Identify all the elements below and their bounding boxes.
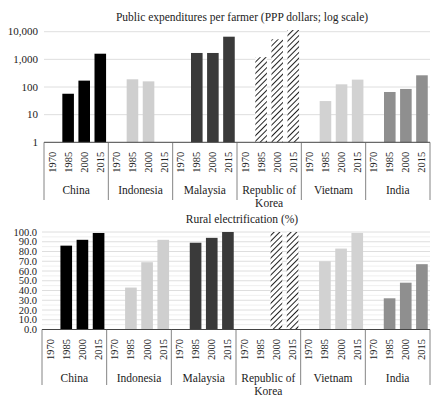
bar-india-2000 bbox=[400, 283, 412, 330]
group-label: Republic of bbox=[242, 184, 296, 197]
group-label: Malaysia bbox=[183, 372, 225, 385]
bar-indonesia-2000 bbox=[143, 81, 155, 142]
electrification-chart: Rural electrification (%) 0.010.020.030.… bbox=[0, 200, 444, 398]
x-tick-year: 2000 bbox=[142, 339, 153, 360]
bar-vietnam-1985 bbox=[320, 101, 332, 142]
x-tick-year: 2015 bbox=[223, 152, 234, 173]
bar-china-2015 bbox=[93, 233, 105, 330]
y-tick-label: 30.0 bbox=[19, 295, 37, 306]
x-tick-year: 1985 bbox=[127, 152, 138, 173]
group-label: China bbox=[61, 372, 88, 384]
x-tick-year: 2015 bbox=[93, 339, 104, 360]
group-label: Vietnam bbox=[314, 184, 353, 196]
x-tick-year: 2015 bbox=[352, 152, 363, 173]
bar-china-1985 bbox=[60, 246, 72, 330]
x-tick-year: 1970 bbox=[111, 152, 122, 173]
bar-indonesia-2000 bbox=[141, 262, 153, 329]
bar-malaysia-2015 bbox=[222, 232, 234, 330]
x-tick-year: 2015 bbox=[287, 339, 298, 360]
x-tick-year: 1985 bbox=[319, 339, 330, 360]
bar-india-2015 bbox=[416, 75, 428, 142]
bar-vietnam-2015 bbox=[352, 80, 364, 143]
bar-malaysia-2000 bbox=[206, 238, 218, 330]
x-tick-year: 1970 bbox=[303, 339, 314, 360]
x-tick-year: 1970 bbox=[174, 339, 185, 360]
group-label: Vietnam bbox=[314, 372, 353, 384]
x-tick-year: 1985 bbox=[125, 339, 136, 360]
group-label: Korea bbox=[254, 385, 282, 397]
x-tick-year: 1985 bbox=[384, 339, 395, 360]
x-tick-year: 2000 bbox=[143, 152, 154, 173]
x-tick-year: 2000 bbox=[206, 339, 217, 360]
bar-malaysia-2000 bbox=[207, 53, 219, 142]
x-tick-year: 1970 bbox=[368, 152, 379, 173]
y-axis-ticks: 1101001,00010,000 bbox=[8, 25, 39, 148]
expenditures-chart: Public expenditures per farmer (PPP doll… bbox=[0, 0, 444, 200]
x-tick-year: 1985 bbox=[61, 339, 72, 360]
x-tick-year: 1970 bbox=[47, 152, 58, 173]
y-tick-label: 10,000 bbox=[8, 25, 39, 37]
bar-vietnam-1985 bbox=[319, 261, 331, 329]
bar-indonesia-1985 bbox=[125, 288, 137, 330]
bar-republic-of-korea-2015 bbox=[288, 30, 300, 142]
bar-republic-of-korea-2000 bbox=[271, 39, 283, 142]
x-tick-year: 1970 bbox=[109, 339, 120, 360]
y-tick-label: 50.0 bbox=[19, 275, 37, 286]
bar-china-2015 bbox=[95, 54, 107, 143]
x-axis: 1970198520002015China1970198520002015Ind… bbox=[42, 330, 430, 397]
x-tick-year: 2015 bbox=[159, 152, 170, 173]
bar-india-1985 bbox=[384, 92, 396, 142]
x-tick-year: 1985 bbox=[384, 152, 395, 173]
x-tick-year: 2000 bbox=[207, 152, 218, 173]
bar-vietnam-2015 bbox=[351, 233, 363, 330]
bar-republic-of-korea-1985 bbox=[255, 57, 267, 142]
bar-malaysia-1985 bbox=[190, 243, 202, 330]
bar-china-1985 bbox=[62, 94, 74, 143]
y-tick-label: 40.0 bbox=[19, 285, 37, 296]
y-tick-label: 10 bbox=[27, 108, 39, 120]
group-label: China bbox=[62, 184, 89, 196]
group-label: India bbox=[386, 184, 410, 196]
y-tick-label: 80.0 bbox=[19, 246, 37, 257]
x-tick-year: 1970 bbox=[240, 152, 251, 173]
bar-indonesia-1985 bbox=[127, 79, 139, 142]
y-tick-label: 60.0 bbox=[19, 266, 37, 277]
y-tick-label: 10.0 bbox=[19, 314, 37, 325]
x-tick-year: 1970 bbox=[175, 152, 186, 173]
x-tick-year: 2015 bbox=[416, 152, 427, 173]
bar-india-2000 bbox=[400, 89, 412, 142]
y-tick-label: 100 bbox=[22, 81, 39, 93]
bar-malaysia-2015 bbox=[223, 37, 235, 143]
x-tick-year: 1985 bbox=[256, 152, 267, 173]
x-tick-year: 1970 bbox=[45, 339, 56, 360]
x-tick-year: 2000 bbox=[272, 152, 283, 173]
x-tick-year: 1970 bbox=[239, 339, 250, 360]
y-tick-label: 100.0 bbox=[13, 227, 37, 238]
x-tick-year: 2000 bbox=[400, 339, 411, 360]
x-tick-year: 2015 bbox=[222, 339, 233, 360]
bar-indonesia-2015 bbox=[157, 240, 169, 330]
x-tick-year: 2015 bbox=[352, 339, 363, 360]
y-tick-label: 90.0 bbox=[19, 236, 37, 247]
x-tick-year: 2015 bbox=[416, 339, 427, 360]
group-label: Indonesia bbox=[118, 184, 163, 196]
x-tick-year: 2015 bbox=[95, 152, 106, 173]
x-tick-year: 1985 bbox=[320, 152, 331, 173]
x-tick-year: 1970 bbox=[368, 339, 379, 360]
electrification-chart-plot: 0.010.020.030.040.050.060.070.080.090.01… bbox=[0, 200, 444, 398]
group-label: Malaysia bbox=[184, 184, 226, 197]
bar-vietnam-2000 bbox=[336, 84, 348, 142]
bar-vietnam-2000 bbox=[335, 249, 347, 330]
x-tick-year: 1985 bbox=[63, 152, 74, 173]
bar-republic-of-korea-2000 bbox=[271, 232, 283, 330]
x-tick-year: 2015 bbox=[158, 339, 169, 360]
expenditures-chart-plot: 1101001,00010,0001970198520002015China19… bbox=[0, 0, 444, 200]
y-tick-label: 1 bbox=[33, 136, 39, 148]
group-label: Republic of bbox=[241, 372, 295, 385]
bar-india-2015 bbox=[416, 264, 428, 329]
x-tick-year: 1985 bbox=[190, 339, 201, 360]
bar-china-2000 bbox=[77, 240, 89, 330]
y-axis-ticks: 0.010.020.030.040.050.060.070.080.090.01… bbox=[13, 227, 37, 336]
x-tick-year: 2015 bbox=[288, 152, 299, 173]
group-label: India bbox=[386, 372, 410, 384]
